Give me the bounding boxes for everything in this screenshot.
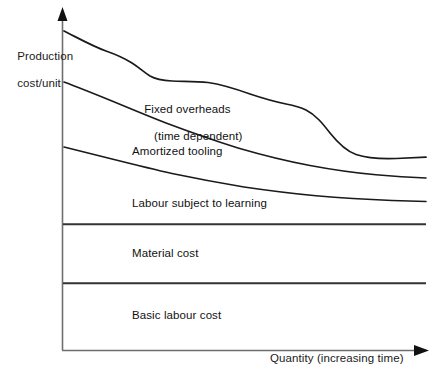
band-label-fixed-overheads-line-2: (time dependent) (131, 130, 243, 144)
y-axis-arrow-icon (58, 7, 68, 21)
y-axis-label-line-2: cost/unit (17, 77, 61, 89)
y-axis-label-line-1: Production (17, 50, 73, 62)
x-axis-label: Quantity (increasing time) (270, 352, 404, 366)
band-label-basic-labour-cost: Basic labour cost (132, 309, 221, 323)
x-axis-arrow-icon (414, 345, 429, 356)
curve-top-of-amortized-tooling (64, 82, 426, 178)
band-label-amortized-tooling: Amortized tooling (132, 145, 223, 159)
curve-total-production-cost (64, 31, 426, 159)
y-axis-label: Production cost/unit (4, 36, 73, 104)
band-label-fixed-overheads-line-1: Fixed overheads (144, 103, 231, 115)
production-cost-chart: Production cost/unit Quantity (increasin… (0, 0, 439, 377)
band-label-material-cost: Material cost (132, 247, 199, 261)
band-label-labour-subject-to-learning: Labour subject to learning (132, 197, 267, 211)
